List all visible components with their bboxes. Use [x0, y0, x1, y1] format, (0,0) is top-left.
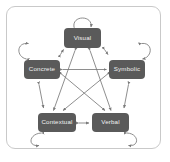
edge-visual-verbal	[90, 51, 111, 111]
self-loop-verbal	[127, 133, 137, 146]
node-visual[interactable]: Visual	[64, 28, 101, 48]
node-visual-label: Visual	[74, 35, 92, 41]
edge-symbolic-verbal	[124, 85, 129, 109]
node-symbolic[interactable]: Symbolic	[109, 60, 145, 79]
node-concrete-label: Concrete	[29, 66, 55, 72]
self-loop-contextual	[31, 133, 42, 146]
self-loop-visual	[74, 18, 91, 27]
node-contextual-label: Contextual	[41, 119, 72, 125]
self-loop-symbolic	[142, 43, 151, 59]
node-verbal[interactable]: Verbal	[92, 113, 129, 132]
node-contextual[interactable]: Contextual	[38, 113, 76, 132]
edge-concrete-verbal	[62, 75, 105, 111]
node-verbal-label: Verbal	[101, 119, 119, 125]
edge-layer	[0, 0, 170, 162]
self-loop-concrete	[19, 43, 29, 59]
edge-concrete-contextual	[39, 85, 44, 109]
diagram-canvas: Visual Concrete Symbolic Contextual Verb…	[0, 0, 170, 162]
edge-visual-symbolic	[105, 50, 109, 55]
edge-visual-concrete	[61, 50, 64, 55]
node-symbolic-label: Symbolic	[114, 66, 140, 72]
node-concrete[interactable]: Concrete	[24, 60, 60, 79]
edge-symbolic-contextual	[63, 75, 107, 111]
